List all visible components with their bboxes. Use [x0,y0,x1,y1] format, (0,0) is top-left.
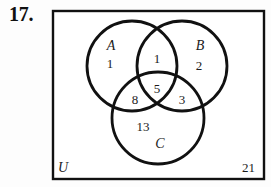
set-b-label: B [196,38,205,53]
region-count-a-and-b: 1 [154,51,161,66]
region-count-c-only: 13 [137,119,150,134]
region-count-a-b-c: 5 [154,81,161,96]
set-c-label: C [155,136,165,151]
region-count-a-and-c: 8 [132,92,139,107]
set-a-label: A [106,38,116,53]
region-count-a-only: 1 [107,56,114,71]
venn-diagram-figure: 17. A B C 1 2 1 5 8 3 13 U 21 [0,0,271,187]
venn-diagram-svg: A B C 1 2 1 5 8 3 13 U 21 [0,0,271,187]
universe-total: 21 [242,160,255,175]
universe-label: U [58,160,69,175]
region-count-b-and-c: 3 [179,92,186,107]
region-count-b-only: 2 [196,58,203,73]
